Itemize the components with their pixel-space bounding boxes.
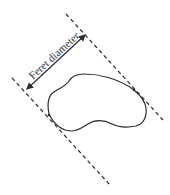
feret-diameter-diagram: Feret diameter [0, 0, 170, 195]
feret-diameter-arrow [27, 35, 85, 89]
feret-diameter-label: Feret diameter [26, 29, 81, 81]
lower-contact-point [48, 114, 51, 117]
diagram-svg: Feret diameter [0, 0, 170, 195]
particle-outline [48, 74, 146, 131]
upper-tangent-line [66, 14, 163, 120]
lower-tangent-line [12, 78, 110, 185]
upper-contact-point [133, 89, 136, 92]
